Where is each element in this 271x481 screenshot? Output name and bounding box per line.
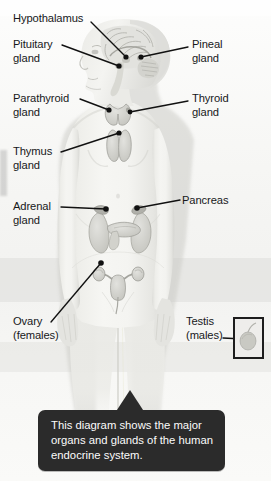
leader-parathyroid bbox=[80, 99, 109, 110]
caption-text: This diagram shows the major organs and … bbox=[51, 418, 217, 464]
leader-pancreas bbox=[137, 200, 180, 208]
testis-organ bbox=[235, 319, 262, 357]
leader-hypothalamus bbox=[91, 22, 126, 57]
leader-thymus bbox=[61, 133, 119, 152]
label-pineal-gland: Pineal gland bbox=[192, 38, 223, 65]
leader-pineal bbox=[141, 47, 188, 57]
label-testis: Testis (males) bbox=[186, 315, 223, 342]
leader-pituitary bbox=[62, 45, 119, 66]
testis-inset-box bbox=[233, 317, 264, 359]
label-pancreas: Pancreas bbox=[182, 194, 228, 208]
label-ovary: Ovary (females) bbox=[13, 315, 59, 342]
caption-callout: This diagram shows the major organs and … bbox=[38, 410, 225, 471]
leader-adrenal bbox=[61, 207, 106, 209]
leader-thyroid bbox=[130, 101, 188, 112]
label-hypothalamus: Hypothalamus bbox=[13, 12, 83, 26]
label-thyroid-gland: Thyroid gland bbox=[192, 92, 229, 119]
label-parathyroid-gland: Parathyroid gland bbox=[13, 92, 69, 119]
label-adrenal-gland: Adrenal gland bbox=[13, 200, 51, 227]
endocrine-system-diagram: Hypothalamus Pituitary gland Pineal glan… bbox=[0, 0, 271, 481]
leader-ovary bbox=[51, 263, 101, 322]
label-thymus-gland: Thymus gland bbox=[13, 145, 52, 172]
label-pituitary-gland: Pituitary gland bbox=[13, 38, 53, 65]
